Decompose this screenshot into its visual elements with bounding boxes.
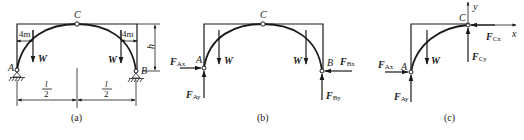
label-c: C (260, 9, 267, 20)
label-b: B (141, 65, 147, 76)
label-a: A (7, 62, 15, 73)
load-w-label: W (431, 55, 441, 66)
x-axis-label: x (511, 28, 517, 39)
load-w-left-label: W (38, 53, 48, 64)
hinge-c (261, 22, 265, 26)
label-c: C (74, 9, 81, 20)
label-a: A (400, 61, 408, 72)
hinge-a (202, 66, 206, 70)
svg-text:2: 2 (104, 89, 109, 99)
svg-text:l: l (105, 79, 108, 89)
arch-curve (204, 24, 322, 71)
svg-text:2: 2 (44, 89, 49, 99)
label-b: B (327, 57, 333, 68)
hinge-b (320, 69, 324, 73)
panel-c: C A y x W FAx FAy FCx FCy (c) (377, 1, 517, 124)
svg-text:l: l (45, 79, 48, 89)
caption-a: (a) (71, 112, 82, 124)
y-axis-label: y (472, 1, 478, 12)
force-fbx-label: FBx (339, 56, 355, 68)
label-a: A (195, 54, 203, 65)
load-w-left-label: W (224, 55, 234, 66)
dim-4m-right-label: 4m (122, 29, 134, 39)
label-c: C (459, 12, 466, 23)
dim-4m-left-label: 4m (19, 29, 31, 39)
force-fby-label: FBy (325, 90, 341, 102)
force-fay-label: FAy (185, 89, 201, 101)
force-fay-label: FAy (393, 91, 409, 103)
caption-c: (c) (444, 112, 455, 124)
panel-b: C A B W W FAx FAy FBx FBy (b) (169, 9, 355, 124)
frame-outline (204, 24, 323, 71)
frame-outline (17, 24, 137, 71)
dim-h-label: h (145, 44, 156, 49)
panel-a: C A B 4m W 4m W (7, 9, 160, 124)
dim-half-span-left-label: l 2 (42, 79, 52, 99)
hinge-a (409, 70, 413, 74)
force-fax-label: FAx (377, 59, 394, 71)
caption-b: (b) (257, 112, 269, 124)
force-fcy-label: FCy (471, 51, 487, 63)
three-hinged-arch-figure: C A B 4m W 4m W (0, 0, 524, 140)
load-w-right-label: W (293, 55, 303, 66)
dim-half-span-right-label: l 2 (102, 79, 112, 99)
load-w-right-label: W (108, 54, 118, 65)
hinge-c (75, 22, 79, 26)
force-fcx-label: FCx (485, 31, 501, 43)
arch-curve (17, 24, 136, 71)
force-fax-label: FAx (169, 56, 186, 68)
